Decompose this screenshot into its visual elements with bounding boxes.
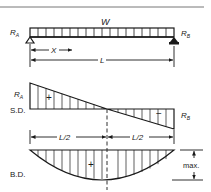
span-dimension-label: L <box>100 56 104 65</box>
moment-hatching <box>38 150 166 179</box>
udl-load-cells <box>38 28 166 37</box>
shear-positive-sign: + <box>46 92 52 103</box>
shear-negative-region <box>107 109 174 129</box>
pin-support-icon <box>26 37 34 43</box>
half-span-right-label: L/2 <box>132 133 144 142</box>
roller-support-icon <box>169 37 179 45</box>
reaction-rb-label: RB <box>181 29 191 39</box>
max-moment-label: max. <box>183 161 199 170</box>
beam-diagram: W RA RB <box>0 0 211 192</box>
x-dimension-label: X <box>50 46 57 55</box>
half-span-left-label: L/2 <box>59 133 71 142</box>
reaction-ra-label: RA <box>10 28 20 38</box>
shear-ra-label: RA <box>14 90 24 100</box>
load-label: W <box>101 17 111 27</box>
shear-diagram: + − RA RB S.D. <box>10 83 191 129</box>
moment-diagram-label: B.D. <box>10 170 26 179</box>
shear-positive-region <box>30 83 107 109</box>
shear-rb-label: RB <box>181 111 191 121</box>
moment-diagram: + B.D. max. <box>10 150 203 180</box>
moment-positive-sign: + <box>88 159 94 170</box>
beam-section: W RA RB <box>10 17 191 67</box>
half-span-dimensions <box>30 130 174 144</box>
shear-diagram-label: S.D. <box>10 106 26 115</box>
shear-negative-sign: − <box>156 108 162 119</box>
